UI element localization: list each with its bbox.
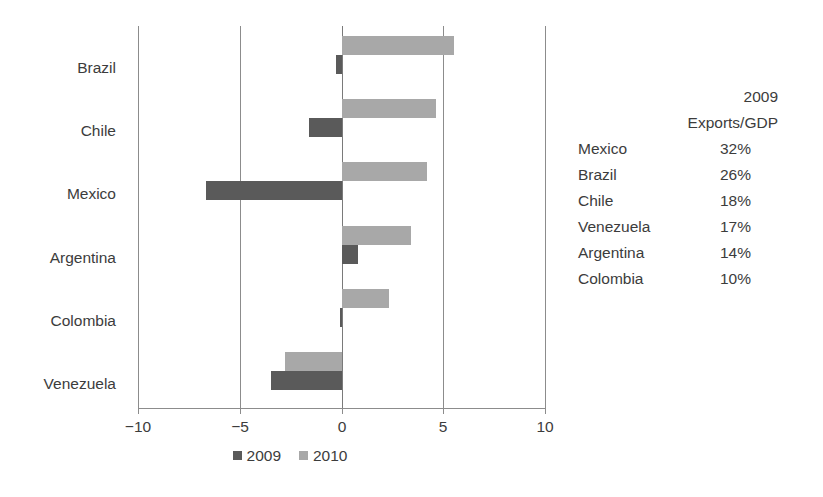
tick-label-minus5: −5 [210, 418, 270, 436]
category-label-mexico: Mexico [0, 186, 116, 202]
table-cell-country: Argentina [578, 240, 644, 266]
tick-label-zero: 0 [312, 418, 372, 436]
tick-label-plus10: 10 [515, 418, 575, 436]
legend-swatch-icon-2010 [299, 451, 308, 460]
gridline-plus5 [443, 26, 444, 408]
category-label-brazil: Brazil [0, 60, 116, 76]
table-row: Argentina 14% [570, 240, 820, 266]
table-row: Brazil 26% [570, 162, 820, 188]
bar-chart: Brazil Chile Mexico Argentina Colombia V… [0, 0, 580, 497]
tick-label-minus10: −10 [108, 418, 168, 436]
table-cell-value: 18% [720, 188, 751, 214]
bar-argentina-2009 [342, 245, 358, 264]
category-label-venezuela: Venezuela [0, 376, 116, 392]
tick-label-plus5: 5 [413, 418, 473, 436]
legend-item-2010: 2010 [299, 447, 347, 465]
category-axis-labels: Brazil Chile Mexico Argentina Colombia V… [0, 24, 124, 404]
table-cell-value: 26% [720, 162, 751, 188]
tick-mark-zero [342, 408, 343, 414]
category-label-chile: Chile [0, 123, 116, 139]
table-cell-country: Colombia [578, 266, 643, 292]
table-header-metric: Exports/GDP [570, 110, 820, 136]
bar-argentina-2010 [342, 226, 411, 245]
table-row: Chile 18% [570, 188, 820, 214]
table-row: Venezuela 17% [570, 214, 820, 240]
legend-label-2010: 2010 [313, 447, 347, 464]
tick-mark-plus10 [545, 408, 546, 414]
bar-chile-2010 [342, 99, 436, 118]
table-row: Colombia 10% [570, 266, 820, 292]
bar-colombia-2009 [340, 308, 342, 327]
chart-legend: 20092010 [0, 447, 580, 465]
bar-venezuela-2009 [271, 371, 342, 390]
bar-mexico-2010 [342, 162, 427, 181]
legend-label-2009: 2009 [247, 447, 281, 464]
category-label-argentina: Argentina [0, 250, 116, 266]
gridline-zero [342, 26, 343, 408]
table-cell-value: 10% [720, 266, 751, 292]
gridline-minus10 [138, 26, 139, 408]
chart-page: Brazil Chile Mexico Argentina Colombia V… [0, 0, 823, 497]
bar-brazil-2010 [342, 36, 454, 55]
bar-colombia-2010 [342, 289, 389, 308]
category-label-colombia: Colombia [0, 313, 116, 329]
legend-swatch-icon-2009 [233, 451, 242, 460]
tick-mark-minus5 [240, 408, 241, 414]
plot-area [138, 26, 545, 408]
bar-venezuela-2010 [285, 352, 342, 371]
tick-mark-minus10 [138, 408, 139, 414]
table-cell-country: Mexico [578, 136, 627, 162]
table-cell-value: 14% [720, 240, 751, 266]
bar-brazil-2009 [336, 55, 342, 74]
table-cell-country: Brazil [578, 162, 617, 188]
bar-chile-2009 [309, 118, 342, 137]
bar-mexico-2009 [206, 181, 342, 200]
table-cell-value: 17% [720, 214, 751, 240]
legend-item-2009: 2009 [233, 447, 281, 465]
table-cell-country: Chile [578, 188, 613, 214]
exports-gdp-table: 2009 Exports/GDP Mexico 32% Brazil 26% C… [570, 84, 820, 292]
table-cell-value: 32% [720, 136, 751, 162]
tick-mark-plus5 [443, 408, 444, 414]
table-header-year: 2009 [570, 84, 820, 110]
table-row: Mexico 32% [570, 136, 820, 162]
table-cell-country: Venezuela [578, 214, 650, 240]
gridline-minus5 [240, 26, 241, 408]
gridline-plus10 [545, 26, 546, 408]
